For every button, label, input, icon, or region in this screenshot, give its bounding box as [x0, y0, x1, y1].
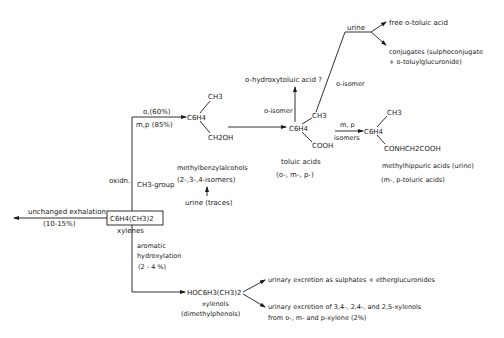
- toluic-cooh: COOH: [312, 142, 333, 150]
- toluic-label: toluic acids: [281, 158, 321, 166]
- isomers-edge-label: isomers: [334, 134, 360, 142]
- toluic-ring: C6H4: [289, 125, 309, 133]
- hydroxytoluic-edge-label: o-isomer: [264, 107, 293, 115]
- free-toluic-label: free o-toluic acid: [389, 19, 448, 27]
- oxidation-branch: oxidn. CH3-group o,(60%) m,p (85%): [109, 108, 186, 211]
- toluic-acids-node: C6H4 CH3 COOH toluic acids (o-, m-, p-): [276, 112, 333, 179]
- xylenols-label: xylenols: [202, 300, 229, 308]
- methylhippuric-branch: m, p isomers C6H4 CH3 CONHCH2COOH methyl…: [334, 109, 474, 184]
- hydroxylation-branch: aromatic hydroxylation (2 - 4 %): [132, 225, 185, 292]
- hippuric-sublabel: (m-, p-toluric acids): [381, 176, 445, 184]
- xylenol-excretion-line2: from o-, m- and p-xylene (2%): [268, 314, 366, 322]
- ch3-group-label: CH3-group: [137, 181, 175, 189]
- benzyl-ch3: CH3: [208, 93, 223, 101]
- toluic-ch3: CH3: [312, 112, 327, 120]
- o-branch-percent: o,(60%): [143, 108, 171, 116]
- o-isomer-urine-branch: o-isomer urine free o-toluic acid conjug…: [316, 19, 483, 112]
- exhalation-percent: (10-15%): [43, 220, 76, 228]
- hydroxylation-line2: hydroxylation: [137, 252, 181, 260]
- benzyl-ring: C6H4: [187, 114, 207, 122]
- xylenes-node: C6H4(CH3)2 xylenes: [107, 211, 163, 235]
- hydroxytoluic-label: o-hydroxytoluic acid ?: [245, 76, 322, 84]
- hydroxylation-line1: aromatic: [137, 242, 166, 250]
- conjugates-line2: + o-toluylglucuronide): [389, 58, 462, 66]
- hippuric-ring: C6H4: [364, 128, 384, 136]
- benzyl-label: methylbenzylalcohols: [177, 164, 248, 172]
- hydroxylation-line3: (2 - 4 %): [138, 263, 166, 271]
- xylenols-node: HOC6H3(CH3)2 xylenols (dimethylphenols) …: [181, 276, 436, 322]
- sulphates-arrow: [243, 280, 265, 292]
- urine-label: urine: [347, 24, 365, 32]
- xylenes-label: xylenes: [117, 227, 144, 235]
- exhalation-label: unchanged exhalation: [28, 208, 106, 216]
- benzyl-isomers: (2-,3-,4-isomers): [177, 176, 236, 184]
- urine-traces-label: urine (traces): [185, 199, 233, 207]
- mp-edge-label: m, p: [340, 121, 355, 129]
- sulphates-label: urinary excretion as sulphates + ethergl…: [268, 276, 436, 284]
- hippuric-ch3: CH3: [387, 109, 402, 117]
- conjugates-arrow: [371, 32, 386, 45]
- hippuric-label: methylhippuric acids (urine): [382, 162, 474, 170]
- toluic-isomers: (o-, m-, p-): [276, 171, 314, 179]
- oxidation-label: oxidn.: [109, 177, 130, 185]
- free-toluic-arrow: [371, 22, 386, 32]
- hydroxytoluic-branch: o-isomer o-hydroxytoluic acid ?: [245, 76, 322, 122]
- benzyl-ch2oh: CH2OH: [208, 134, 233, 142]
- hippuric-substituent: CONHCH2COOH: [384, 145, 441, 153]
- mp-branch-percent: m,p (85%): [136, 121, 173, 129]
- xylenols-sublabel: (dimethylphenols): [181, 310, 240, 318]
- xylenes-formula: C6H4(CH3)2: [110, 215, 154, 223]
- exhalation-branch: unchanged exhalation (10-15%): [14, 208, 107, 228]
- xylenols-formula: HOC6H3(CH3)2: [187, 289, 241, 297]
- conjugates-line1: conjugates (sulphoconjugate: [389, 48, 483, 56]
- xylene-metabolism-diagram: C6H4(CH3)2 xylenes unchanged exhalation …: [0, 0, 504, 338]
- benzyl-alcohols-node: C6H4 CH3 CH2OH methylbenzylalcohols (2-,…: [177, 93, 248, 207]
- xylenol-excretion-line1: urinary excretion of 3,4-, 2,4-, and 2,5…: [268, 303, 422, 311]
- o-isomer-edge-label: o-isomer: [336, 80, 365, 88]
- xylenol-excretion-arrow: [243, 294, 265, 307]
